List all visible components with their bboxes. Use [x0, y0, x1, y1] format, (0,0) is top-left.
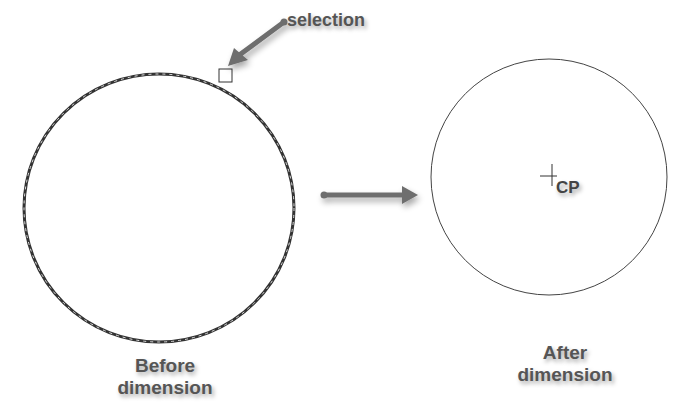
- after-label-line2: dimension: [490, 364, 640, 386]
- selection-label: selection: [287, 9, 365, 31]
- transition-arrow-icon: [321, 186, 419, 204]
- before-label-line1: Before: [90, 355, 240, 377]
- selection-arrow-icon: [228, 19, 288, 67]
- circle-before: [24, 74, 294, 342]
- circle-after: [431, 59, 667, 295]
- before-label: Before dimension: [90, 355, 240, 399]
- selection-pickbox: [219, 69, 232, 82]
- center-point-label: CP: [556, 177, 580, 199]
- center-crosshair-icon: [540, 164, 557, 186]
- before-label-line2: dimension: [90, 377, 240, 399]
- after-label-line1: After: [490, 342, 640, 364]
- after-label: After dimension: [490, 342, 640, 386]
